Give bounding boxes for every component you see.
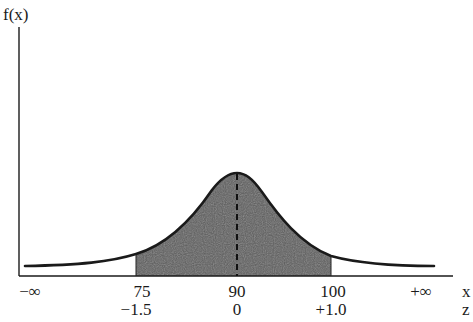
z-tick-0: 0: [233, 301, 242, 318]
z-row-label: z: [462, 301, 470, 318]
z-tick-neg-1-5: −1.5: [121, 301, 152, 318]
x-tick-90: 90: [229, 283, 246, 300]
x-tick-pos-infinity: +∞: [410, 283, 432, 300]
y-axis-label: f(x): [3, 6, 28, 23]
x-tick-75: 75: [134, 283, 151, 300]
normal-curve-figure: [0, 0, 473, 322]
shaded-area: [25, 173, 434, 276]
x-tick-neg-infinity: −∞: [19, 283, 41, 300]
z-tick-pos-1-0: +1.0: [316, 301, 347, 318]
x-row-label: x: [462, 283, 471, 300]
x-tick-100: 100: [320, 283, 346, 300]
